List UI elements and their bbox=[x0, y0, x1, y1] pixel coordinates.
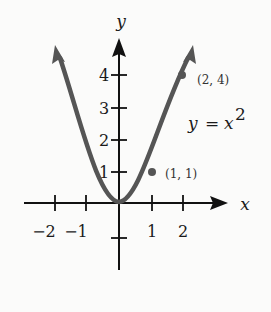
x-axis-label: x bbox=[240, 194, 250, 214]
x-tick-label: 1 bbox=[147, 222, 157, 241]
x-tick-label: −2 bbox=[32, 222, 56, 241]
y-tick-label: 3 bbox=[99, 99, 109, 118]
point-1-1 bbox=[148, 168, 156, 176]
equation-label: y = x 2 bbox=[187, 104, 246, 133]
curve-left-arrow-icon bbox=[52, 45, 65, 64]
equation-lhs: y bbox=[187, 113, 198, 133]
curve-right-arrow-icon bbox=[183, 45, 196, 64]
equation-exponent: 2 bbox=[235, 104, 246, 124]
y-tick-label: 4 bbox=[99, 66, 109, 85]
y-tick-label: 1 bbox=[99, 163, 109, 182]
y-tick-label: 2 bbox=[99, 131, 109, 150]
point-2-4 bbox=[178, 71, 186, 79]
x-tick-label: 2 bbox=[178, 222, 188, 241]
equation-rhs: x bbox=[224, 113, 234, 133]
y-axis bbox=[111, 38, 127, 270]
y-axis-label: y bbox=[115, 11, 126, 31]
parabola-chart: −2 −1 1 2 4 3 2 1 x y (1, 1) (2, 4) y = … bbox=[0, 0, 271, 312]
equation-equals: = bbox=[205, 113, 219, 133]
point-label-1-1: (1, 1) bbox=[165, 167, 197, 181]
x-tick-label: −1 bbox=[64, 222, 88, 241]
point-label-2-4: (2, 4) bbox=[197, 73, 229, 87]
